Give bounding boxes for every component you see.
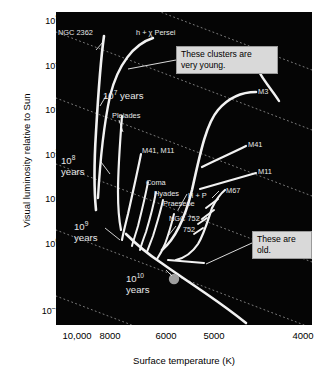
- sun-marker: [169, 274, 179, 284]
- y-tick-1e0: 100: [25, 239, 59, 249]
- x-tick-8000: 8000: [99, 330, 120, 341]
- label-ngc2362: NGC 2362: [58, 29, 93, 37]
- age-label-1e7: 107 years: [103, 91, 143, 102]
- y-axis-title: Visual luminosity relative to Sun: [21, 61, 32, 261]
- age-label-1e10: 1010years: [126, 274, 149, 295]
- radius-gridline-6: [56, 296, 312, 325]
- curve-old-cluster-stub: [168, 260, 204, 263]
- leader-age9: [105, 228, 120, 240]
- label-praesepe: Praesepe: [163, 200, 195, 208]
- x-tick-6000: 6000: [155, 330, 176, 341]
- hr-diagram-figure: Visual luminosity relative to Sun 105 10…: [0, 0, 324, 373]
- x-tick-4000: 4000: [292, 330, 313, 341]
- age-label-1e9-unit: years: [74, 232, 97, 243]
- age-label-1e9-exponent: 9: [85, 220, 89, 227]
- y-tick-1e2: 102: [25, 150, 59, 160]
- age-label-1e7-unit: years: [117, 90, 143, 101]
- age-label-1e8: 108years: [61, 156, 84, 177]
- y-tick-1em1: 10–1: [25, 306, 59, 316]
- curve-coma: [132, 182, 148, 246]
- curve-pleiades: [118, 116, 122, 230]
- leader-age8: [101, 162, 110, 174]
- x-tick-10000: 10,000: [62, 330, 91, 341]
- curve-752-subgiant-2: [194, 228, 203, 234]
- age-label-1e10-exponent: 10: [137, 272, 144, 279]
- y-tick-1e3: 103: [25, 105, 59, 115]
- age-label-1e8-exponent: 8: [72, 154, 76, 161]
- label-m41-m11: M41, M11: [142, 147, 174, 155]
- label-m67: M67: [226, 187, 240, 195]
- callout-connector-young: [128, 60, 176, 69]
- label-hyades: Hyades: [154, 190, 179, 198]
- label-ngc752: NGC 752: [169, 215, 200, 223]
- x-axis-title: Surface temperature (K): [56, 355, 312, 366]
- label-h-p: H + P: [188, 192, 207, 200]
- label-pleiades: Pleiades: [112, 112, 140, 120]
- label-coma: Coma: [146, 179, 166, 187]
- age-label-1e10-unit: years: [126, 284, 149, 295]
- callout-connector-old: [206, 243, 252, 264]
- curve-praesepe: [147, 200, 163, 252]
- callout-old-clusters: These are old.: [252, 231, 312, 259]
- label-752: 752: [183, 226, 195, 234]
- y-tick-1e1: 101: [25, 194, 59, 204]
- y-tick-1e5: 105: [25, 16, 59, 26]
- label-m11: M11: [258, 168, 272, 176]
- label-m41: M41: [248, 141, 262, 149]
- y-tick-1e4: 104: [25, 61, 59, 71]
- x-tick-5000: 5000: [203, 330, 224, 341]
- age-label-1e9: 109years: [74, 222, 97, 243]
- plot-area: NGC 2362 h + χ Persei h + χ Persei Pleia…: [56, 12, 312, 325]
- callout-young-clusters: These clusters are very young.: [176, 46, 278, 74]
- label-hchi-persei-top: h + χ Persei: [136, 29, 175, 37]
- age-label-1e8-unit: years: [61, 166, 84, 177]
- label-m3: M3: [258, 88, 268, 96]
- curve-hyades: [140, 192, 156, 250]
- cluster-curves: [95, 36, 280, 323]
